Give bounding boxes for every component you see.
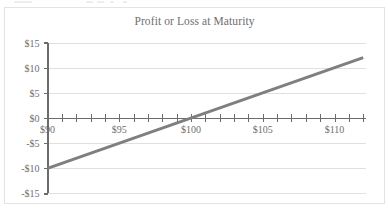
x-tick-label-105: $105 (253, 124, 273, 135)
chart-container: Profit or Loss at Maturity $15$10$5$0-$5… (4, 7, 385, 204)
x-tick-label-110: $110 (325, 124, 345, 135)
line-chart-plot: $15$10$5$0-$5-$10-$15 $90$95$100$105$110 (1, 1, 388, 208)
y-axis-label-group: $15$10$5$0-$5-$10-$15 (21, 38, 39, 200)
y-tick-label-5: $5 (30, 88, 40, 99)
y-tick-label--5: -$5 (26, 138, 39, 149)
y-axis-tick-group (44, 43, 48, 194)
y-tick-label-15: $15 (25, 38, 40, 49)
y-tick-label-0: $0 (30, 113, 40, 124)
x-axis-label-group: $90$95$100$105$110 (40, 124, 344, 135)
x-tick-label-100: $100 (181, 124, 201, 135)
x-tick-label-95: $95 (112, 124, 127, 135)
y-tick-label-10: $10 (25, 63, 40, 74)
y-tick-label--10: -$10 (21, 163, 39, 174)
series-line-profit-or-loss (48, 58, 364, 169)
y-tick-label--15: -$15 (21, 188, 39, 199)
